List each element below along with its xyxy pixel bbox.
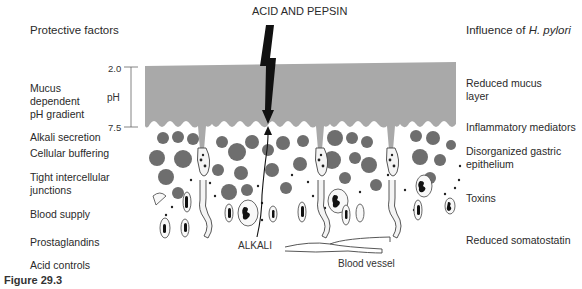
figure-caption: Figure 29.3	[4, 274, 62, 286]
alkali-label: ALKALI	[238, 240, 272, 251]
blood-vessel	[285, 237, 390, 253]
gastric-mucosa-diagram	[0, 0, 582, 289]
epithelial-cell-granules	[149, 130, 456, 200]
ph-scale-bracket	[124, 67, 138, 127]
alkali-arrow-head	[264, 126, 272, 135]
blood-vessel-label: Blood vessel	[338, 258, 395, 269]
lamina-propria-cells	[153, 175, 455, 238]
